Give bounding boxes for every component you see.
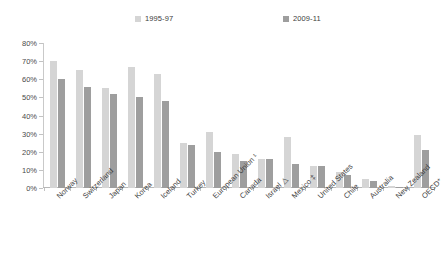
y-axis-tick-mark bbox=[39, 97, 43, 98]
y-axis-tick-label: 70% bbox=[22, 57, 37, 66]
x-axis-label: Australia bbox=[368, 194, 374, 200]
x-axis-label: Norway bbox=[55, 194, 61, 200]
x-axis-label: New Zealand bbox=[394, 194, 400, 200]
bar-series1 bbox=[154, 74, 161, 188]
y-axis-tick-label: 30% bbox=[22, 129, 37, 138]
x-axis-label: United States bbox=[316, 194, 322, 200]
x-axis-label: Israel △ bbox=[263, 194, 269, 200]
bar-group bbox=[305, 43, 331, 188]
legend-item-2009-11: 2009-11 bbox=[283, 14, 321, 23]
x-axis-label: Korea bbox=[133, 194, 139, 200]
bar-group bbox=[148, 43, 174, 188]
bar-chart: 1995-97 2009-11 80%70%60%50%40%30%20%10%… bbox=[0, 0, 446, 262]
y-axis-tick-mark bbox=[39, 79, 43, 80]
y-axis-tick-label: 50% bbox=[22, 93, 37, 102]
x-axis-label: Switzerland bbox=[81, 194, 87, 200]
bar-group bbox=[200, 43, 226, 188]
bar-series2 bbox=[136, 97, 143, 188]
bar-series1 bbox=[206, 132, 213, 188]
bar-series1 bbox=[76, 70, 83, 188]
bar-series2 bbox=[84, 87, 91, 189]
y-axis-tick-label: 20% bbox=[22, 147, 37, 156]
bar-series1 bbox=[50, 61, 57, 188]
chart-legend: 1995-97 2009-11 bbox=[0, 14, 446, 28]
x-axis-labels: NorwaySwitzerlandJapanKoreaIcelandTurkey… bbox=[44, 192, 435, 262]
y-axis-tick-mark bbox=[39, 152, 43, 153]
bar-series2 bbox=[266, 159, 273, 188]
y-axis-tick-mark bbox=[39, 116, 43, 117]
bar-series1 bbox=[128, 67, 135, 188]
bar-series2 bbox=[162, 101, 169, 188]
x-axis-label: Iceland bbox=[159, 194, 165, 200]
bar-group bbox=[44, 43, 70, 188]
bar-group bbox=[357, 43, 383, 188]
legend-swatch-1995-97 bbox=[135, 16, 141, 22]
x-axis-label: Chile bbox=[342, 194, 348, 200]
y-axis-tick-label: 80% bbox=[22, 39, 37, 48]
legend-label-1995-97: 1995-97 bbox=[145, 14, 173, 23]
x-axis-label: OECD* bbox=[420, 194, 426, 200]
bar-group bbox=[279, 43, 305, 188]
bar-series2 bbox=[58, 79, 65, 188]
y-axis-tick-mark bbox=[39, 170, 43, 171]
legend-label-2009-11: 2009-11 bbox=[293, 14, 321, 23]
y-axis-tick-mark bbox=[39, 188, 43, 189]
x-axis-label: Canada bbox=[237, 194, 243, 200]
x-axis-label: European Union ¹ bbox=[211, 194, 217, 200]
y-axis-tick-label: 0% bbox=[26, 184, 37, 193]
bar-series2 bbox=[214, 152, 221, 188]
x-axis-label: Mexico ‡ bbox=[290, 194, 296, 200]
legend-swatch-2009-11 bbox=[283, 16, 289, 22]
bar-group bbox=[70, 43, 96, 188]
y-axis-tick-label: 40% bbox=[22, 111, 37, 120]
x-axis-label: Japan bbox=[107, 194, 113, 200]
bar-group bbox=[122, 43, 148, 188]
legend-item-1995-97: 1995-97 bbox=[135, 14, 173, 23]
y-axis-tick-mark bbox=[39, 61, 43, 62]
y-axis-tick-mark bbox=[39, 134, 43, 135]
bar-series1 bbox=[362, 179, 369, 188]
y-axis-tick-label: 10% bbox=[22, 165, 37, 174]
bar-series2 bbox=[188, 145, 195, 189]
y-axis-tick-label: 60% bbox=[22, 75, 37, 84]
x-axis-label: Turkey bbox=[185, 194, 191, 200]
bar-group bbox=[174, 43, 200, 188]
bar-group bbox=[383, 43, 409, 188]
y-axis-tick-mark bbox=[39, 43, 43, 44]
bar-group bbox=[253, 43, 279, 188]
